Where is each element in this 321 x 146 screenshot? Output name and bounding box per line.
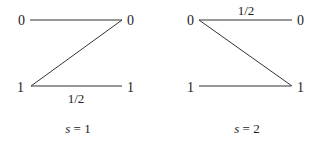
node-bottom-right: 1 (297, 80, 304, 95)
caption-value: = 1 (70, 121, 90, 136)
edge-bottom-label: 1/2 (68, 91, 85, 106)
caption-s1: s = 1 (65, 121, 90, 136)
edge-diagonal (31, 20, 122, 86)
node-top-right: 0 (127, 13, 134, 28)
diagram-s2: 0 0 1 1 1/2 s = 2 (187, 3, 304, 136)
diagram-s1: 0 0 1 1 1/2 s = 1 (17, 13, 134, 136)
node-top-left: 0 (18, 13, 25, 28)
edge-top-label: 1/2 (238, 3, 255, 18)
diagram-canvas: 0 0 1 1 1/2 s = 1 0 0 1 1 1/2 s = 2 (0, 0, 321, 146)
node-top-left: 0 (187, 13, 194, 28)
caption-s2: s = 2 (234, 121, 259, 136)
node-bottom-right: 1 (127, 80, 134, 95)
edge-diagonal (199, 20, 292, 86)
node-bottom-left: 1 (17, 80, 24, 95)
caption-value: = 2 (239, 121, 259, 136)
node-bottom-left: 1 (187, 80, 194, 95)
node-top-right: 0 (297, 13, 304, 28)
